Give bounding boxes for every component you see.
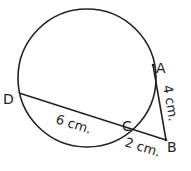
point-a-dot xyxy=(152,64,155,67)
label-b: B xyxy=(167,139,177,155)
label-cb-length: 2 cm. xyxy=(123,135,162,160)
label-c: C xyxy=(122,118,132,134)
geometry-diagram: D A B C 6 cm. 2 cm. 4 cm. xyxy=(0,0,191,171)
label-a: A xyxy=(156,60,166,76)
label-ab-length: 4 cm. xyxy=(160,84,181,122)
label-d: D xyxy=(3,91,14,107)
